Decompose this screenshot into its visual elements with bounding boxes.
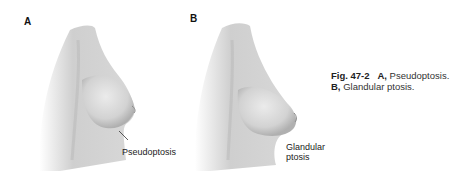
panel-label-a: A [24, 16, 31, 27]
torso-a-illustration [40, 26, 135, 171]
callout-glandular-line2: ptosis [286, 152, 325, 162]
caption-line-2: B, Glandular ptosis. [331, 81, 461, 92]
callout-glandular-ptosis: Glandular ptosis [286, 142, 325, 162]
caption-b-text: Glandular ptosis. [343, 81, 414, 92]
caption-a-label: A, [377, 70, 387, 81]
callout-glandular-line1: Glandular [286, 142, 325, 152]
caption-a-text: Pseudoptosis. [390, 70, 450, 81]
panel-label-b: B [190, 13, 197, 24]
torso-b-illustration [195, 23, 296, 171]
caption-b-label: B, [331, 81, 341, 92]
figure-caption: Fig. 47-2 A, Pseudoptosis. B, Glandular … [331, 70, 461, 92]
callout-pseudoptosis: Pseudoptosis [122, 147, 176, 157]
caption-line-1: Fig. 47-2 A, Pseudoptosis. [331, 70, 461, 81]
caption-fig-number: Fig. 47-2 [331, 70, 370, 81]
